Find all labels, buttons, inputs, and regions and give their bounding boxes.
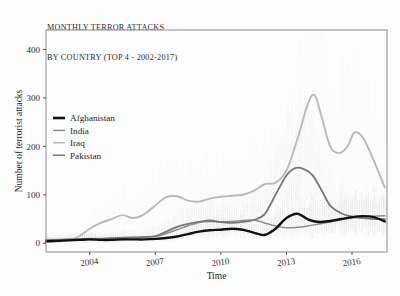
legend-label-pakistan[interactable]: Pakistan (70, 151, 102, 161)
legend-label-india[interactable]: India (70, 126, 89, 136)
raw-monthly-scatter (46, 30, 385, 243)
chart-figure: MONTHLY TERROR ATTACKS BY COUNTRY (TOP 4… (0, 0, 400, 296)
y-tick-label: 200 (27, 142, 41, 152)
chart-legend: AfghanistanIndiaIraqPakistan (53, 113, 115, 160)
legend-label-iraq[interactable]: Iraq (70, 138, 85, 148)
y-tick-label: 0 (36, 238, 41, 248)
x-tick-label: 2007 (145, 256, 165, 268)
legend-label-afghanistan[interactable]: Afghanistan (70, 113, 115, 123)
x-tick-label: 2004 (80, 256, 100, 268)
y-tick-label: 400 (27, 45, 41, 55)
x-axis-title: Time (207, 271, 227, 281)
y-tick-label: 300 (27, 93, 41, 103)
x-tick-label: 2013 (276, 256, 296, 268)
x-tick-label: 2010 (211, 256, 231, 268)
x-tick-label: 2016 (342, 256, 362, 268)
chart-plot-area: 010020030040020042007201020132016TimeNum… (0, 0, 400, 296)
y-tick-label: 100 (27, 190, 41, 200)
y-axis-title: Number of terrorist attacks (14, 89, 24, 192)
